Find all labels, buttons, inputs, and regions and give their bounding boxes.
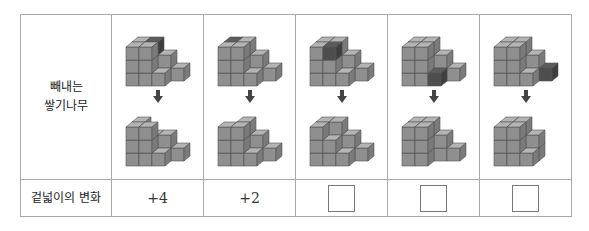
figure-cell-2 (204, 15, 296, 180)
surface-change-value-1: +4 (112, 180, 204, 217)
after-figure (296, 104, 387, 170)
before-figure (388, 24, 479, 90)
cube-stack-figure (486, 104, 566, 170)
before-figure (296, 24, 387, 90)
answer-cell-3 (296, 180, 388, 217)
after-figure (204, 104, 295, 170)
cube-stack-figure (394, 24, 474, 90)
down-arrow-icon (337, 90, 347, 104)
surface-area-table: 빼내는 쌓기나무 겉넓이의 변화 +4 +2 (20, 14, 572, 217)
down-arrow-icon (521, 90, 531, 104)
cube-stack-figure (302, 104, 382, 170)
row-header-line-2: 쌓기나무 (21, 97, 111, 116)
figure-cell-1 (112, 15, 204, 180)
answer-box[interactable] (420, 185, 447, 212)
down-arrow-icon (153, 90, 163, 104)
answer-cell-4 (388, 180, 480, 217)
cube-stack-figure (210, 24, 290, 90)
down-arrow-icon (245, 90, 255, 104)
cube-stack-figure (118, 24, 198, 90)
answer-box[interactable] (328, 185, 355, 212)
cube-stack-figure (486, 24, 566, 90)
row-header-removed-cube: 빼내는 쌓기나무 (21, 15, 112, 180)
figure-cell-4 (388, 15, 480, 180)
cube-stack-figure (394, 104, 474, 170)
surface-change-value-2: +2 (204, 180, 296, 217)
figure-row: 빼내는 쌓기나무 (21, 15, 572, 180)
row-header-surface-change: 겉넓이의 변화 (21, 180, 112, 217)
after-figure (112, 104, 203, 170)
cube-stack-figure (302, 24, 382, 90)
surface-change-row: 겉넓이의 변화 +4 +2 (21, 180, 572, 217)
answer-box[interactable] (512, 185, 539, 212)
down-arrow-icon (429, 90, 439, 104)
before-figure (112, 24, 203, 90)
before-figure (480, 24, 571, 90)
figure-cell-5 (480, 15, 572, 180)
after-figure (480, 104, 571, 170)
before-figure (204, 24, 295, 90)
after-figure (388, 104, 479, 170)
figure-cell-3 (296, 15, 388, 180)
answer-cell-5 (480, 180, 572, 217)
cube-stack-figure (210, 104, 290, 170)
row-header-line-1: 빼내는 (21, 78, 111, 97)
cube-stack-figure (118, 104, 198, 170)
